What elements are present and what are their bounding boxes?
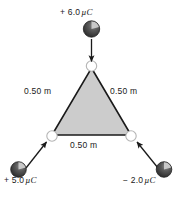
charge-sphere-bottom-right [156, 162, 172, 178]
side-label-left: 0.50 m [24, 87, 51, 96]
charge-label-top-value: + 6.0 [60, 7, 80, 17]
charge-label-bottom-left-value: + 5.0 [4, 175, 24, 185]
charge-label-bottom-right: − 2.0µC [123, 176, 156, 185]
equilateral-triangle [52, 68, 131, 135]
charge-label-bottom-left-unit: µC [24, 175, 37, 185]
side-label-right: 0.50 m [110, 87, 137, 96]
charge-label-bottom-right-unit: µC [143, 175, 156, 185]
charge-label-top: + 6.0µC [60, 8, 93, 17]
charge-sphere-top [83, 21, 99, 37]
charge-label-bottom-right-value: − 2.0 [123, 175, 143, 185]
vertex-marker-bottom-right [126, 131, 136, 141]
side-label-bottom: 0.50 m [70, 141, 97, 150]
charge-label-bottom-left: + 5.0µC [4, 176, 37, 185]
vertex-marker-bottom-left [47, 131, 57, 141]
charge-label-top-unit: µC [80, 7, 93, 17]
charge-triangle-diagram [0, 0, 182, 197]
arrow-bottom-left-charge [26, 142, 47, 168]
arrow-bottom-right-charge [137, 142, 158, 168]
vertex-marker-top [86, 61, 96, 71]
